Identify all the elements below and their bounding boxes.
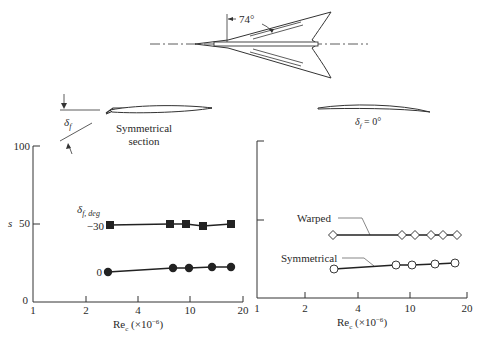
right-xtick-1: 1 [254,302,260,314]
series-label-minus30: −30 [87,220,105,232]
right-xtick-2: 2 [302,302,308,314]
warped-section-sketch [318,105,430,112]
left-xtick-20: 20 [238,304,250,316]
left-xtick-10: 10 [185,304,197,316]
symmetrical-leader-line [342,258,374,266]
left-xtick-4: 4 [135,304,141,316]
right-xtick-4: 4 [355,302,361,314]
left-xtick-2: 2 [83,304,89,316]
series-minus30-deg [106,220,235,230]
left-ylabel: s [8,217,12,229]
warped-leader-line [338,218,370,235]
left-ytick-0: 0 [23,294,29,306]
series-label-0: 0 [97,266,103,278]
fuselage [214,42,318,46]
series-symmetrical [330,259,459,273]
right-xtick-20: 20 [462,302,474,314]
aircraft-planform [150,12,368,78]
left-xlabel: Rec (×10−6) [113,318,163,333]
series-label-warped: Warped [297,212,331,224]
sweep-angle-label: 74° [239,13,254,25]
figure-canvas: 74° δf Symmetrical section δf = 0° 0 50 … [0,0,480,337]
series-0-deg [104,263,235,276]
section-caption-line2: section [128,135,160,147]
series-warped [329,231,462,240]
left-ytick-100: 100 [14,140,31,152]
right-xtick-10: 10 [405,302,417,314]
left-xtick-1: 1 [30,304,36,316]
right-xlabel: Rec (×10−6) [337,316,387,331]
zero-deflection-label: δf = 0° [355,116,381,130]
series-label-symmetrical: Symmetrical [281,252,337,264]
legend-title-flap-deflection: δf, deg [77,203,100,218]
left-ytick-50: 50 [19,217,31,229]
section-caption-line1: Symmetrical [116,122,172,134]
right-chart-axes [257,141,467,298]
deflection-symbol: δf [64,116,73,131]
